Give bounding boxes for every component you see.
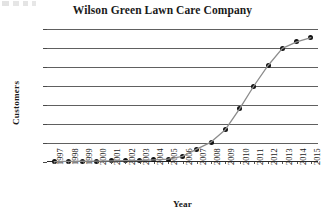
chart-figure: Wilson Green Lawn Care Company Customers… xyxy=(0,0,325,217)
x-tick-label: 1998 xyxy=(72,148,80,165)
x-tick-label: 2011 xyxy=(257,149,265,165)
x-tick-mark xyxy=(168,162,169,164)
y-axis-title: Customers xyxy=(11,81,21,125)
x-tick-mark xyxy=(311,162,312,164)
data-point xyxy=(223,127,228,132)
data-point xyxy=(294,39,299,44)
x-tick-label: 2002 xyxy=(129,148,137,165)
y-tick-mark xyxy=(43,48,47,49)
x-tick-mark xyxy=(125,162,126,164)
x-tick-label: 2004 xyxy=(157,148,165,165)
x-tick-mark xyxy=(268,162,269,164)
x-tick-mark xyxy=(254,162,255,164)
x-tick-label: 2009 xyxy=(228,148,236,165)
x-tick-label: 2000 xyxy=(100,148,108,165)
data-point xyxy=(266,63,271,68)
data-point xyxy=(251,84,256,89)
y-tick-mark xyxy=(43,67,47,68)
gridline xyxy=(47,124,318,125)
y-tick-mark xyxy=(43,29,47,30)
data-point xyxy=(280,46,285,51)
x-tick-label: 2003 xyxy=(143,148,151,165)
gridline xyxy=(47,67,318,68)
x-tick-mark xyxy=(211,162,212,164)
x-tick-mark xyxy=(97,162,98,164)
x-tick-mark xyxy=(240,162,241,164)
x-tick-label: 2005 xyxy=(171,148,179,165)
x-tick-label: 2007 xyxy=(200,148,208,165)
plot-area xyxy=(47,29,318,162)
x-axis-title: Year xyxy=(47,199,318,209)
x-tick-label: 2015 xyxy=(314,148,322,165)
x-tick-mark xyxy=(68,162,69,164)
x-tick-label: 2012 xyxy=(271,148,279,165)
gridline xyxy=(47,143,318,144)
x-tick-mark xyxy=(297,162,298,164)
chart-title: Wilson Green Lawn Care Company xyxy=(0,4,325,16)
x-tick-label: 2006 xyxy=(186,148,194,165)
y-tick-mark xyxy=(43,105,47,106)
y-tick-mark xyxy=(43,143,47,144)
x-tick-mark xyxy=(282,162,283,164)
x-tick-mark xyxy=(140,162,141,164)
x-tick-mark xyxy=(183,162,184,164)
x-tick-label: 2008 xyxy=(214,148,222,165)
x-tick-mark xyxy=(197,162,198,164)
x-tick-label: 2010 xyxy=(243,148,251,165)
x-tick-label: 2013 xyxy=(286,148,294,165)
gridline xyxy=(47,29,318,30)
x-tick-label: 1999 xyxy=(86,148,94,165)
x-tick-mark xyxy=(54,162,55,164)
x-tick-label: 1997 xyxy=(57,148,65,165)
gridline xyxy=(47,105,318,106)
x-tick-mark xyxy=(111,162,112,164)
x-tick-mark xyxy=(83,162,84,164)
data-point xyxy=(308,35,313,40)
gridline xyxy=(47,48,318,49)
x-tick-label: 2014 xyxy=(300,148,308,165)
y-tick-mark xyxy=(43,162,47,163)
x-tick-mark xyxy=(154,162,155,164)
data-point xyxy=(209,140,214,145)
y-tick-mark xyxy=(43,86,47,87)
y-tick-mark xyxy=(43,124,47,125)
x-tick-label: 2001 xyxy=(114,148,122,165)
x-tick-mark xyxy=(225,162,226,164)
data-point xyxy=(237,106,242,111)
gridline xyxy=(47,86,318,87)
